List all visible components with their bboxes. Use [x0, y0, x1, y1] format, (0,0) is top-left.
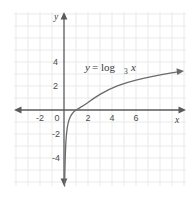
plot-canvas: -2 0 2 4 6 4 2 -2 -4 y x y = log 3 x	[0, 0, 193, 200]
x-tick-label--2: -2	[36, 113, 44, 123]
x-tick-label-6: 6	[133, 113, 138, 123]
x-tick-label-2: 2	[85, 113, 90, 123]
function-label-arg: x	[130, 61, 136, 73]
y-tick-label--2: -2	[52, 129, 60, 139]
y-tick-label-2: 2	[53, 81, 58, 91]
function-label-y: y	[84, 61, 90, 73]
y-tick-label--4: -4	[52, 153, 60, 163]
x-axis-label: x	[174, 115, 180, 125]
logarithm-graph-figure: -2 0 2 4 6 4 2 -2 -4 y x y = log 3 x	[0, 0, 193, 200]
x-tick-label-0: 0	[54, 113, 59, 123]
function-label-main: = log	[92, 61, 116, 73]
function-label-base: 3	[124, 67, 128, 76]
y-axis-label: y	[53, 12, 59, 22]
y-tick-label-4: 4	[53, 57, 58, 67]
x-tick-label-4: 4	[109, 113, 114, 123]
